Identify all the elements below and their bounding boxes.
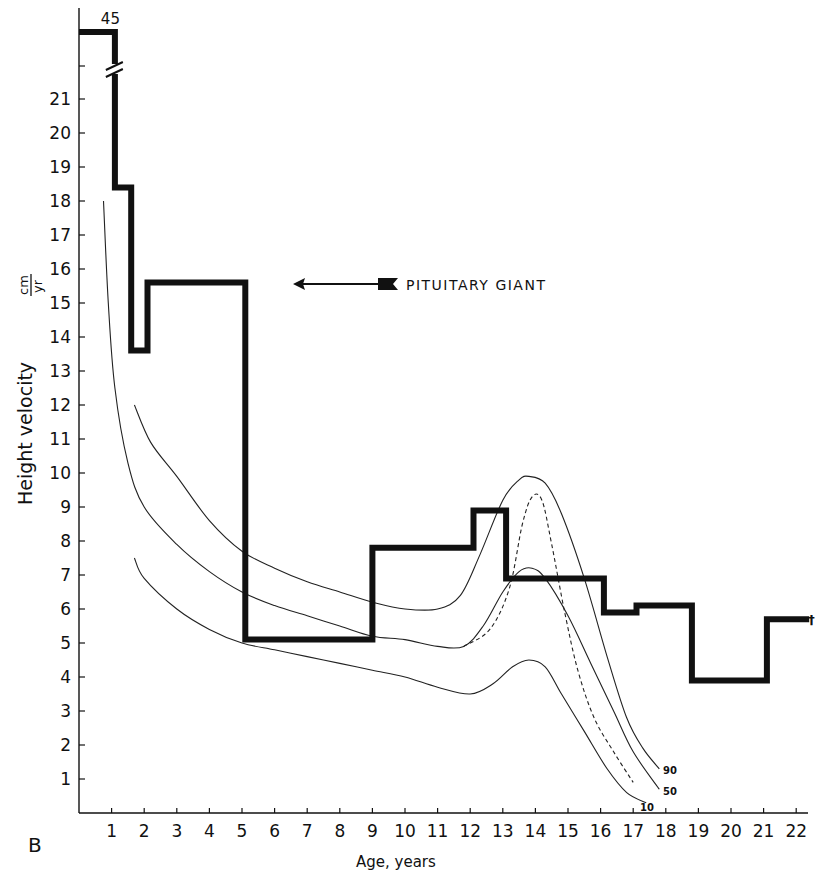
x-tick-label: 14 bbox=[525, 821, 547, 841]
y-tick-label: 4 bbox=[60, 667, 71, 687]
x-tick-label: 11 bbox=[427, 821, 449, 841]
y-tick-label: 19 bbox=[49, 157, 71, 177]
x-tick-label: 1 bbox=[106, 821, 117, 841]
y-tick-label: 17 bbox=[49, 225, 71, 245]
90th-centile-curve bbox=[134, 405, 659, 769]
x-tick-label: 10 bbox=[394, 821, 416, 841]
y-axis-title: Height velocity bbox=[14, 362, 36, 505]
y-tick-label: 5 bbox=[60, 633, 71, 653]
x-tick-label: 9 bbox=[367, 821, 378, 841]
y-tick-label: 14 bbox=[49, 327, 71, 347]
height-velocity-chart: 1234567891011121314151617181920212212345… bbox=[0, 0, 819, 885]
x-axis-title: Age, years bbox=[356, 853, 436, 871]
dagger-end-marker: † bbox=[808, 612, 815, 627]
x-tick-label: 20 bbox=[720, 821, 742, 841]
y-tick-label: 8 bbox=[60, 531, 71, 551]
y-tick-label: 15 bbox=[49, 293, 71, 313]
y-tick-label: 10 bbox=[49, 463, 71, 483]
y-tick-label: 18 bbox=[49, 191, 71, 211]
y-tick-label: 7 bbox=[60, 565, 71, 585]
pituitary-giant-series: 45† bbox=[79, 10, 815, 680]
peak-aligned-mean-dashed-curve bbox=[464, 494, 634, 782]
y-tick-label: 9 bbox=[60, 497, 71, 517]
y-tick-label: 6 bbox=[60, 599, 71, 619]
y-tick-label: 20 bbox=[49, 123, 71, 143]
y-unit-numerator: cm bbox=[16, 275, 31, 295]
centile-curves: 905010 bbox=[104, 201, 677, 813]
break-value-label: 45 bbox=[101, 10, 120, 28]
panel-label: B bbox=[28, 833, 42, 857]
y-tick-label: 16 bbox=[49, 259, 71, 279]
x-tick-label: 3 bbox=[171, 821, 182, 841]
x-tick-label: 13 bbox=[492, 821, 514, 841]
legend: PITUITARY GIANT bbox=[293, 277, 546, 293]
axes: 1234567891011121314151617181920212212345… bbox=[49, 8, 808, 841]
y-tick-label: 11 bbox=[49, 429, 71, 449]
legend-label: PITUITARY GIANT bbox=[406, 277, 546, 293]
y-tick-label: 3 bbox=[60, 701, 71, 721]
giant-step-line bbox=[79, 32, 809, 680]
y-tick-label: 1 bbox=[60, 769, 71, 789]
x-tick-label: 2 bbox=[139, 821, 150, 841]
x-tick-label: 21 bbox=[753, 821, 775, 841]
x-tick-label: 15 bbox=[557, 821, 579, 841]
y-axis-unit: cm yr bbox=[16, 274, 45, 296]
x-tick-label: 16 bbox=[590, 821, 612, 841]
x-tick-label: 7 bbox=[302, 821, 313, 841]
legend-arrow-fletching-icon bbox=[378, 278, 398, 290]
y-tick-label: 12 bbox=[49, 395, 71, 415]
10th-centile-curve bbox=[134, 558, 646, 803]
label-50th-centile: 50 bbox=[663, 786, 677, 797]
x-tick-label: 18 bbox=[655, 821, 677, 841]
x-tick-label: 6 bbox=[269, 821, 280, 841]
x-tick-label: 22 bbox=[785, 821, 807, 841]
x-tick-label: 19 bbox=[688, 821, 710, 841]
y-tick-label: 21 bbox=[49, 89, 71, 109]
x-tick-label: 5 bbox=[237, 821, 248, 841]
x-tick-label: 12 bbox=[459, 821, 481, 841]
x-tick-label: 17 bbox=[622, 821, 644, 841]
x-tick-label: 8 bbox=[334, 821, 345, 841]
label-10th-centile: 10 bbox=[640, 802, 654, 813]
y-unit-denominator: yr bbox=[30, 279, 45, 293]
x-tick-label: 4 bbox=[204, 821, 215, 841]
label-90th-centile: 90 bbox=[663, 765, 677, 776]
y-tick-label: 2 bbox=[60, 735, 71, 755]
y-tick-label: 13 bbox=[49, 361, 71, 381]
